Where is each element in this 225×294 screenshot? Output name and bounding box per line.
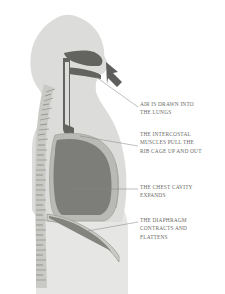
callout-chest-cavity: The chest cavity expands xyxy=(140,183,193,200)
air-inflow-arrow xyxy=(106,62,122,87)
callout-cavity-line-1: The chest cavity xyxy=(140,183,193,191)
callout-ribs-line-1: The intercostal xyxy=(140,130,202,138)
callout-cavity-line-2: expands xyxy=(140,191,193,199)
callout-diaphragm-line-1: The diaphragm xyxy=(140,216,187,224)
callout-diaphragm: The diaphragm contracts and flattens xyxy=(140,216,187,241)
callout-intercostal-muscles: The intercostal muscles pull the rib cag… xyxy=(140,130,202,155)
callout-air-line-1: Air is drawn into xyxy=(140,100,194,108)
callout-diaphragm-line-3: flattens xyxy=(140,233,187,241)
respiration-diagram: Air is drawn into the lungs The intercos… xyxy=(0,0,225,294)
callout-air: Air is drawn into the lungs xyxy=(140,100,194,117)
callout-diaphragm-line-2: contracts and xyxy=(140,224,187,232)
callout-ribs-line-3: rib cage up and out xyxy=(140,147,202,155)
airway-lumen xyxy=(65,62,69,126)
callout-ribs-line-2: muscles pull the xyxy=(140,138,202,146)
callout-air-line-2: the lungs xyxy=(140,108,194,116)
